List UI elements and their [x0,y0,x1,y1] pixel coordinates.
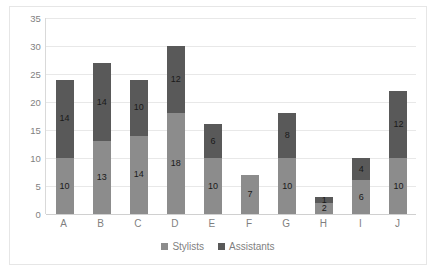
x-axis-tick-label: A [60,218,67,229]
legend-label: Assistants [229,241,275,252]
bar-data-label: 6 [210,137,215,146]
bar-segment-assistants[interactable]: 6 [204,124,222,158]
bar-group[interactable]: 46 [343,18,380,214]
bar-segment-assistants[interactable]: 12 [167,46,185,113]
bar-segment-stylists[interactable]: 10 [204,158,222,214]
stacked-bar[interactable]: 1210 [389,91,407,214]
bar-segment-stylists[interactable]: 10 [389,158,407,214]
y-axis-tick-label: 20 [30,97,41,108]
plot-area: 05101520253035 1410141310141218610781012… [45,18,416,214]
bar-data-label: 12 [171,75,181,84]
bar-group[interactable]: 1218 [157,18,194,214]
x-axis-tick-label: F [246,218,252,229]
bar-data-label: 6 [359,193,364,202]
legend-swatch-icon [161,243,168,250]
bar-data-label: 10 [393,182,403,191]
gridline [46,214,416,215]
x-axis-tick-label: C [134,218,141,229]
x-axis-tick-labels: ABCDEFGHIJ [45,218,416,236]
y-axis-tick-label: 5 [36,181,41,192]
legend-label: Stylists [172,241,204,252]
x-axis-tick-label: J [395,218,400,229]
x-axis-tick-label: B [97,218,104,229]
y-axis-tick-label: 10 [30,153,41,164]
bar-segment-stylists[interactable]: 18 [167,113,185,214]
stacked-bar[interactable]: 1413 [93,63,111,214]
bar-segment-stylists[interactable]: 2 [315,203,333,214]
bar-segment-stylists[interactable]: 10 [56,158,74,214]
chart-legend: StylistsAssistants [10,241,426,252]
bar-segment-assistants[interactable]: 12 [389,91,407,158]
stacked-bar[interactable]: 810 [278,113,296,214]
y-axis-tick-label: 15 [30,125,41,136]
bar-data-label: 10 [60,182,70,191]
bar-data-label: 10 [134,103,144,112]
bar-segment-stylists[interactable]: 7 [241,175,259,214]
x-axis-tick-label: I [359,218,362,229]
bar-segment-stylists[interactable]: 6 [352,180,370,214]
bar-group[interactable]: 1410 [46,18,83,214]
bar-group[interactable]: 12 [306,18,343,214]
y-axis-tick-label: 30 [30,41,41,52]
bar-data-label: 10 [282,182,292,191]
bar-group[interactable]: 1210 [380,18,417,214]
bar-data-label: 7 [248,190,253,199]
bar-group[interactable]: 1413 [83,18,120,214]
y-axis-tick-label: 0 [36,209,41,220]
stacked-bar[interactable]: 610 [204,124,222,214]
bar-data-label: 14 [60,114,70,123]
bar-segment-assistants[interactable]: 4 [352,158,370,180]
bar-segment-assistants[interactable]: 14 [93,63,111,141]
bar-data-label: 2 [322,204,327,213]
bar-data-label: 4 [359,165,364,174]
bar-segment-assistants[interactable]: 14 [56,80,74,158]
bars-layer: 1410141310141218610781012461210 [46,18,416,214]
bar-data-label: 14 [134,170,144,179]
x-axis-tick-label: D [171,218,178,229]
x-axis-tick-label: E [209,218,216,229]
stacked-bar[interactable]: 46 [352,158,370,214]
bar-data-label: 12 [393,120,403,129]
bar-segment-assistants[interactable]: 10 [130,80,148,136]
legend-swatch-icon [218,243,225,250]
bar-group[interactable]: 1014 [120,18,157,214]
y-axis-tick-label: 25 [30,69,41,80]
bar-data-label: 13 [97,173,107,182]
bar-group[interactable]: 7 [232,18,269,214]
x-axis-tick-label: G [282,218,290,229]
legend-item-stylists[interactable]: Stylists [161,241,204,252]
stacked-bar[interactable]: 1014 [130,80,148,214]
bar-segment-stylists[interactable]: 10 [278,158,296,214]
bar-data-label: 14 [97,98,107,107]
bar-data-label: 18 [171,159,181,168]
bar-group[interactable]: 610 [194,18,231,214]
bar-data-label: 10 [208,182,218,191]
stacked-bar[interactable]: 1218 [167,46,185,214]
stacked-bar[interactable]: 1410 [56,80,74,214]
bar-segment-stylists[interactable]: 13 [93,141,111,214]
bar-data-label: 8 [285,131,290,140]
x-axis-tick-label: H [320,218,327,229]
stacked-bar[interactable]: 7 [241,175,259,214]
chart-container: 05101520253035 1410141310141218610781012… [9,6,427,265]
bar-segment-stylists[interactable]: 14 [130,136,148,214]
legend-item-assistants[interactable]: Assistants [218,241,275,252]
bar-group[interactable]: 810 [269,18,306,214]
y-axis-tick-label: 35 [30,13,41,24]
bar-segment-assistants[interactable]: 8 [278,113,296,158]
stacked-bar[interactable]: 12 [315,197,333,214]
